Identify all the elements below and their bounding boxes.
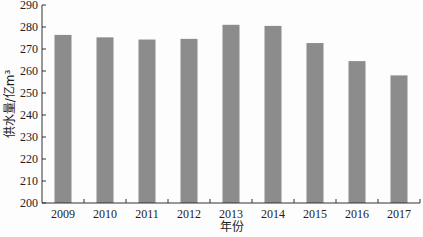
x-tick-label: 2015 — [303, 207, 327, 221]
y-tick-label: 230 — [20, 130, 38, 144]
y-tick-label: 220 — [20, 152, 38, 166]
x-tick-label: 2013 — [219, 207, 243, 221]
x-tick-label: 2012 — [177, 207, 201, 221]
y-axis: 200210220230240250260270280290 — [20, 0, 46, 210]
x-tick-label: 2009 — [51, 207, 75, 221]
x-tick-label: 2016 — [345, 207, 369, 221]
x-axis-title: 年份 — [220, 220, 244, 234]
bar-2014 — [265, 26, 282, 203]
x-tick-label: 2017 — [387, 207, 411, 221]
y-tick-label: 250 — [20, 86, 38, 100]
x-tick-label: 2011 — [135, 207, 159, 221]
bar-2010 — [97, 37, 114, 203]
bars-group — [55, 25, 408, 203]
x-tick-label: 2014 — [261, 207, 285, 221]
y-tick-label: 270 — [20, 42, 38, 56]
y-tick-label: 260 — [20, 64, 38, 78]
bar-2016 — [349, 61, 366, 203]
y-tick-label: 240 — [20, 108, 38, 122]
y-tick-label: 200 — [20, 196, 38, 210]
y-tick-label: 290 — [20, 0, 38, 12]
bar-2015 — [307, 43, 324, 203]
y-axis-title: 供水量/亿m³ — [2, 70, 17, 139]
x-tick-label: 2010 — [93, 207, 117, 221]
bar-2011 — [139, 40, 156, 203]
y-tick-label: 210 — [20, 174, 38, 188]
bar-2017 — [391, 75, 408, 203]
bar-2012 — [181, 39, 198, 203]
y-tick-label: 280 — [20, 20, 38, 34]
bar-chart: 200210220230240250260270280290 200920102… — [0, 0, 423, 237]
bar-2009 — [55, 35, 72, 203]
bar-2013 — [223, 25, 240, 203]
